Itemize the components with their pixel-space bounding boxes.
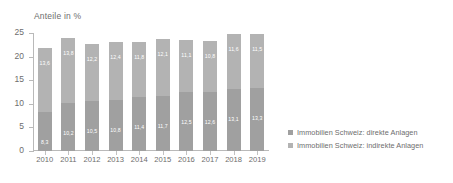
bar-value-label: 12,1: [156, 52, 170, 57]
bar-value-label: 8,3: [38, 140, 52, 145]
legend-item-label: Immobilien Schweiz: direkte Anlagen: [297, 128, 418, 137]
bar-value-label: 11,5: [250, 47, 264, 52]
bar-segment-direkte[interactable]: 12,5: [179, 92, 193, 151]
bar-group[interactable]: 10,213,8: [61, 38, 75, 151]
bar-segment-indirekte[interactable]: 12,4: [109, 42, 123, 101]
plot-area: 05101520258,313,610,213,810,512,210,812,…: [33, 33, 269, 151]
bar-value-label: 11,7: [156, 124, 170, 129]
bar-segment-direkte[interactable]: 10,5: [85, 101, 99, 151]
bar-segment-direkte[interactable]: 10,8: [109, 100, 123, 151]
chart-axis-title: Anteile in %: [34, 11, 81, 21]
legend-swatch-icon: [288, 130, 293, 135]
bar-value-label: 11,8: [132, 55, 146, 60]
bar-value-label: 12,4: [109, 55, 123, 60]
y-axis-tick-label: 15: [15, 74, 24, 84]
bar-segment-direkte[interactable]: 10,2: [61, 103, 75, 151]
bar-group[interactable]: 12,610,8: [203, 41, 217, 151]
bar-value-label: 10,2: [61, 131, 75, 136]
y-axis-tick: 10: [29, 104, 34, 105]
legend-item-label: Immobilien Schweiz: indirekte Anlagen: [297, 141, 423, 150]
stacked-bar-chart: Anteile in % 05101520258,313,610,213,810…: [0, 0, 453, 183]
bar-segment-indirekte[interactable]: 11,8: [132, 42, 146, 98]
bar-segment-indirekte[interactable]: 12,1: [156, 39, 170, 96]
bar-value-label: 11,4: [132, 125, 146, 130]
bar-group[interactable]: 11,712,1: [156, 39, 170, 151]
legend-item-indirekte[interactable]: Immobilien Schweiz: indirekte Anlagen: [288, 141, 423, 150]
legend-swatch-icon: [288, 143, 293, 148]
bar-segment-direkte[interactable]: 11,7: [156, 96, 170, 151]
y-axis-line: [33, 33, 34, 151]
bar-value-label: 10,8: [203, 54, 217, 59]
bar-segment-direkte[interactable]: 13,1: [227, 89, 241, 151]
bar-value-label: 10,8: [109, 128, 123, 133]
bar-group[interactable]: 10,812,4: [109, 42, 123, 152]
bar-value-label: 12,2: [85, 57, 99, 62]
y-axis-tick: 20: [29, 57, 34, 58]
bar-group[interactable]: 8,313,6: [38, 48, 52, 151]
y-axis-tick-label: 0: [19, 145, 24, 155]
bar-segment-indirekte[interactable]: 11,1: [179, 40, 193, 92]
bar-segment-indirekte[interactable]: 12,2: [85, 44, 99, 102]
y-axis-tick-label: 25: [15, 27, 24, 37]
y-axis-tick-label: 10: [15, 98, 24, 108]
legend-item-direkte[interactable]: Immobilien Schweiz: direkte Anlagen: [288, 128, 423, 137]
bar-value-label: 13,6: [38, 61, 52, 66]
bar-segment-indirekte[interactable]: 13,8: [61, 38, 75, 103]
bar-value-label: 11,6: [227, 47, 241, 52]
bar-value-label: 11,1: [179, 53, 193, 58]
bar-value-label: 12,6: [203, 120, 217, 125]
bar-segment-indirekte[interactable]: 11,6: [227, 34, 241, 89]
bar-group[interactable]: 13,111,6: [227, 34, 241, 151]
bar-segment-direkte[interactable]: 13,3: [250, 88, 264, 151]
bar-group[interactable]: 12,511,1: [179, 40, 193, 151]
y-axis-tick-label: 5: [19, 121, 24, 131]
y-axis-tick-label: 20: [15, 51, 24, 61]
bar-group[interactable]: 10,512,2: [85, 44, 99, 151]
bar-segment-indirekte[interactable]: 10,8: [203, 41, 217, 92]
bar-segment-indirekte[interactable]: 11,5: [250, 34, 264, 88]
bar-value-label: 13,3: [250, 116, 264, 121]
bar-group[interactable]: 13,311,5: [250, 34, 264, 151]
bar-value-label: 12,5: [179, 120, 193, 125]
y-axis-tick: 25: [29, 33, 34, 34]
y-axis-tick: 5: [29, 127, 34, 128]
y-axis-tick: 15: [29, 80, 34, 81]
bar-segment-direkte[interactable]: 8,3: [38, 112, 52, 151]
bar-value-label: 13,1: [227, 117, 241, 122]
bar-group[interactable]: 11,411,8: [132, 42, 146, 152]
bar-value-label: 10,5: [85, 129, 99, 134]
bar-segment-indirekte[interactable]: 13,6: [38, 48, 52, 112]
y-axis-tick: 0: [29, 151, 34, 152]
bar-value-label: 13,8: [61, 51, 75, 56]
bar-segment-direkte[interactable]: 12,6: [203, 92, 217, 151]
chart-legend: Immobilien Schweiz: direkte Anlagen Immo…: [288, 128, 423, 154]
bar-segment-direkte[interactable]: 11,4: [132, 97, 146, 151]
x-axis-label: 2019: [242, 155, 272, 164]
